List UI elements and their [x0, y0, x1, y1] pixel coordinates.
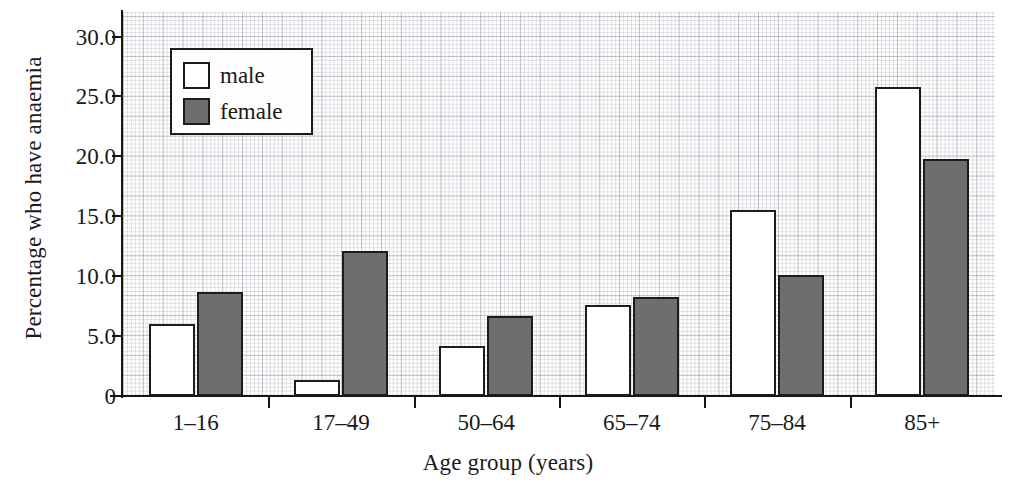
bar-male-6: [875, 87, 921, 396]
y-tick-mark: [112, 155, 123, 157]
anaemia-bar-chart-figure: Percentage who have anaemia 05.010.015.0…: [0, 0, 1016, 492]
bar-male-1: [149, 324, 195, 396]
legend-label-female: female: [220, 100, 283, 123]
y-tick-mark: [112, 395, 123, 397]
legend-item-female: female: [183, 93, 311, 129]
legend-item-male: male: [183, 57, 311, 93]
bar-female-5: [778, 275, 824, 396]
x-tick-label-3: 50–64: [411, 410, 561, 436]
x-tick-label-2: 17–49: [266, 410, 416, 436]
x-tick-mark: [559, 397, 561, 408]
y-tick-mark: [112, 335, 123, 337]
x-tick-mark: [268, 397, 270, 408]
legend-swatch-male-icon: [183, 62, 210, 89]
bar-female-2: [342, 251, 388, 396]
bar-female-4: [633, 297, 679, 396]
x-tick-mark: [414, 397, 416, 408]
y-tick-mark: [112, 215, 123, 217]
x-tick-label-1: 1–16: [121, 410, 271, 436]
bars-layer: 1–1617–4950–6465–7475–8485+: [0, 0, 1016, 492]
bar-male-5: [730, 210, 776, 396]
x-tick-mark: [704, 397, 706, 408]
y-tick-mark: [112, 36, 123, 38]
bar-female-3: [487, 316, 533, 396]
x-tick-mark: [850, 397, 852, 408]
legend-swatch-female-icon: [183, 98, 210, 125]
bar-female-1: [197, 292, 243, 396]
bar-male-3: [439, 346, 485, 396]
bar-male-2: [294, 380, 340, 396]
chart-legend: male female: [170, 48, 313, 135]
bar-male-4: [585, 305, 631, 396]
x-axis-title: Age group (years): [0, 450, 1016, 476]
x-tick-label-4: 65–74: [557, 410, 707, 436]
legend-label-male: male: [220, 64, 265, 87]
x-tick-label-6: 85+: [847, 410, 997, 436]
x-tick-label-5: 75–84: [702, 410, 852, 436]
y-tick-mark: [112, 275, 123, 277]
bar-female-6: [923, 159, 969, 396]
y-tick-mark: [112, 95, 123, 97]
